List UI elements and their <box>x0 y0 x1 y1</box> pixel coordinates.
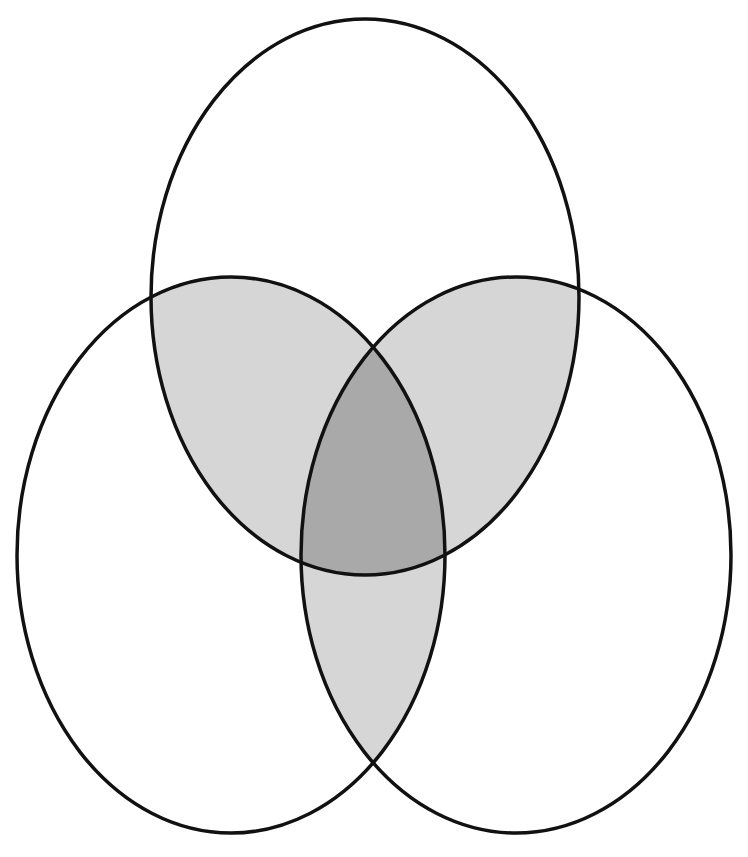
venn-diagram-canvas <box>0 0 748 857</box>
venn-diagram <box>0 0 748 857</box>
